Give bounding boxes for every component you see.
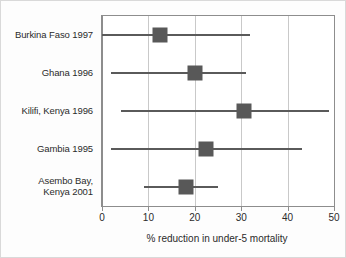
x-tick-label-40: 40: [282, 212, 293, 223]
x-tick-label-30: 30: [236, 212, 247, 223]
y-axis-label-4: Asembo Bay,Kenya 2001: [1, 175, 93, 197]
y-axis-label-line: Kilifi, Kenya 1996: [1, 105, 93, 116]
x-tick-20: [195, 207, 196, 211]
x-tick-30: [241, 207, 242, 211]
y-axis-category-labels: Burkina Faso 1997Ghana 1996Kilifi, Kenya…: [1, 15, 97, 205]
x-axis-title: % reduction in under-5 mortality: [101, 233, 333, 244]
y-axis-label-line: Asembo Bay,: [1, 175, 93, 186]
y-axis-label-2: Kilifi, Kenya 1996: [1, 105, 93, 116]
point-marker: [199, 142, 214, 157]
point-marker: [236, 104, 251, 119]
y-axis-label-line: Kenya 2001: [1, 186, 93, 197]
x-tick-label-20: 20: [189, 212, 200, 223]
y-axis-label-line: Gambia 1995: [1, 143, 93, 154]
point-marker: [187, 66, 202, 81]
point-marker: [178, 180, 193, 195]
confidence-interval-line: [102, 34, 250, 36]
point-marker: [153, 28, 168, 43]
confidence-interval-line: [121, 110, 330, 112]
x-tick-label-0: 0: [99, 212, 105, 223]
x-tick-40: [288, 207, 289, 211]
x-tick-label-50: 50: [328, 212, 339, 223]
plot-area: 01020304050: [101, 15, 335, 207]
x-tick-0: [102, 207, 103, 211]
confidence-interval-line: [111, 72, 246, 74]
y-axis-label-line: Ghana 1996: [1, 67, 93, 78]
y-axis-label-3: Gambia 1995: [1, 143, 93, 154]
x-tick-10: [148, 207, 149, 211]
forest-plot-figure: Burkina Faso 1997Ghana 1996Kilifi, Kenya…: [0, 0, 346, 258]
x-tick-50: [334, 207, 335, 211]
gridline-50: [334, 16, 335, 206]
y-axis-label-1: Ghana 1996: [1, 67, 93, 78]
x-tick-label-10: 10: [143, 212, 154, 223]
gridline-0: [102, 16, 103, 206]
y-axis-label-line: Burkina Faso 1997: [1, 29, 93, 40]
y-axis-label-0: Burkina Faso 1997: [1, 29, 93, 40]
